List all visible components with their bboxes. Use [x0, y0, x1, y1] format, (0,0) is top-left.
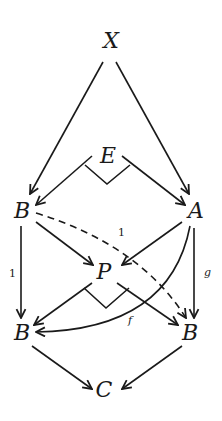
- edge-X-A: [116, 62, 189, 194]
- node-A: A: [186, 198, 204, 223]
- edge-B-C-right: [122, 346, 182, 389]
- node-E: E: [99, 143, 116, 168]
- pullback-marker-P: [84, 288, 129, 308]
- node-C: C: [96, 377, 113, 402]
- edge-X-B: [30, 62, 103, 194]
- diagram-canvas: X E B A P B B C 1 1 g f: [0, 0, 222, 421]
- edge-E-B: [36, 156, 92, 205]
- label-1-dashed: 1: [118, 226, 125, 239]
- node-X: X: [101, 28, 120, 53]
- edge-A-B-f: [36, 226, 190, 332]
- edge-P-B-right: [117, 283, 178, 325]
- edge-A-P: [122, 222, 182, 265]
- edge-P-B-left: [34, 283, 92, 325]
- edge-B-P: [36, 222, 93, 265]
- node-B-bottom-right: B: [181, 320, 198, 345]
- node-P: P: [96, 259, 113, 284]
- label-f: f: [127, 314, 134, 327]
- edge-B-C-left: [32, 346, 92, 389]
- label-1-left: 1: [9, 267, 16, 280]
- edge-E-A: [122, 156, 185, 205]
- node-B-bottom-left: B: [13, 320, 30, 345]
- node-B-left: B: [13, 198, 30, 223]
- label-g: g: [204, 266, 211, 279]
